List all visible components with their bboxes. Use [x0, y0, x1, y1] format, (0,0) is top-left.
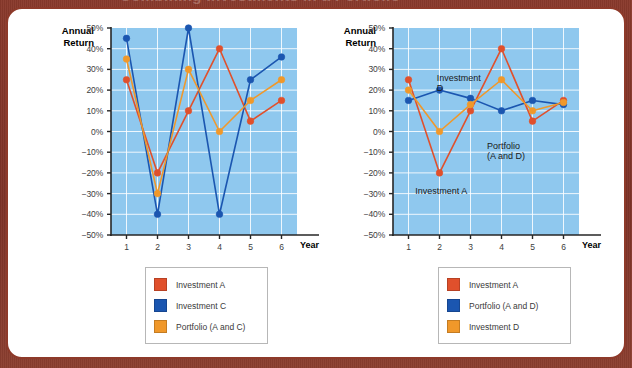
legend-item: Investment A: [154, 274, 257, 295]
legend-color-swatch: [447, 299, 460, 312]
x-tick-label: 6: [557, 242, 571, 252]
legend-color-swatch: [154, 299, 167, 312]
legend-item: Investment D: [447, 316, 560, 337]
x-tick-label: 1: [120, 242, 134, 252]
y-tick-label: 20%: [69, 85, 103, 95]
legend-item-label: Investment D: [469, 322, 519, 332]
y-tick-label: 40%: [351, 44, 385, 54]
y-tick-label: −40%: [69, 209, 103, 219]
chart-investment-a-and-c: Annual Return Year 50%40%30%20%10%0%−10%…: [8, 9, 328, 259]
x-tick-label: 5: [526, 242, 540, 252]
y-tick-label: 10%: [351, 106, 385, 116]
y-tick-label: 30%: [351, 64, 385, 74]
x-tick-label: 3: [464, 242, 478, 252]
legend-item: Investment C: [154, 295, 257, 316]
y-tick-label: −20%: [69, 168, 103, 178]
x-tick-label: 3: [182, 242, 196, 252]
legend-right: Investment APortfolio (A and D)Investmen…: [438, 267, 571, 344]
y-tick-label: −40%: [351, 209, 385, 219]
y-tick-label: 30%: [69, 64, 103, 74]
plot-svg-left: [8, 9, 328, 259]
legend-left: Investment AInvestment CPortfolio (A and…: [145, 267, 268, 344]
x-tick-label: 2: [151, 242, 165, 252]
y-tick-label: −50%: [351, 230, 385, 240]
x-axis-title-right: Year: [582, 240, 601, 250]
x-axis-title-left: Year: [300, 240, 319, 250]
y-tick-label: 0%: [69, 127, 103, 137]
x-tick-label: 4: [213, 242, 227, 252]
y-tick-label: −30%: [69, 189, 103, 199]
y-tick-label: 40%: [69, 44, 103, 54]
y-tick-label: −10%: [69, 147, 103, 157]
y-tick-label: 50%: [351, 23, 385, 33]
page-background: Combining Investments in a Portfolio Ann…: [0, 0, 632, 368]
chart-investment-a-and-d: Annual Return Year 50%40%30%20%10%0%−10%…: [326, 9, 626, 259]
y-tick-label: −50%: [69, 230, 103, 240]
y-tick-label: 20%: [351, 85, 385, 95]
legend-item-label: Investment C: [176, 301, 226, 311]
y-tick-label: −20%: [351, 168, 385, 178]
y-tick-label: 50%: [69, 23, 103, 33]
y-tick-label: −10%: [351, 147, 385, 157]
x-tick-label: 4: [495, 242, 509, 252]
chart-annotation: Investment A: [415, 186, 467, 197]
legend-item-label: Investment A: [176, 280, 225, 290]
legend-color-swatch: [154, 278, 167, 291]
legend-color-swatch: [447, 320, 460, 333]
legend-color-swatch: [154, 320, 167, 333]
y-tick-label: 0%: [351, 127, 385, 137]
x-tick-label: 2: [433, 242, 447, 252]
figure-panel: Annual Return Year 50%40%30%20%10%0%−10%…: [6, 7, 626, 359]
charts-container: Annual Return Year 50%40%30%20%10%0%−10%…: [8, 9, 624, 259]
legend-color-swatch: [447, 278, 460, 291]
chart-annotation: Portfolio (A and D): [487, 141, 525, 162]
x-tick-label: 1: [402, 242, 416, 252]
legend-item: Portfolio (A and C): [154, 316, 257, 337]
y-tick-label: 10%: [69, 106, 103, 116]
legend-item-label: Portfolio (A and C): [176, 322, 245, 332]
legend-item-label: Portfolio (A and D): [469, 301, 538, 311]
legend-item: Portfolio (A and D): [447, 295, 560, 316]
x-tick-label: 6: [275, 242, 289, 252]
legend-item-label: Investment A: [469, 280, 518, 290]
y-tick-label: −30%: [351, 189, 385, 199]
cut-off-heading: Combining Investments in a Portfolio: [0, 0, 632, 7]
legend-item: Investment A: [447, 274, 560, 295]
x-tick-label: 5: [244, 242, 258, 252]
cut-off-heading-text: Combining Investments in a Portfolio: [120, 0, 400, 4]
chart-annotation: Investment D: [437, 73, 481, 94]
